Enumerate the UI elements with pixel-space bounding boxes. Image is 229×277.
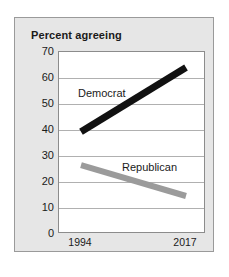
series-layer	[59, 52, 204, 232]
series-line-democrat	[81, 67, 186, 131]
x-tick-2017: 2017	[173, 236, 196, 248]
y-tick-20: 20	[10, 175, 54, 187]
series-label-republican: Republican	[122, 161, 177, 173]
y-tick-50: 50	[10, 97, 54, 109]
series-label-democrat: Democrat	[78, 87, 126, 99]
plot-area	[58, 51, 205, 233]
chart-title: Percent agreeing	[31, 29, 122, 41]
y-axis-tick-labels: 70 60 50 40 30 20 10 0	[8, 51, 54, 233]
y-tick-0: 0	[10, 227, 54, 239]
y-tick-30: 30	[10, 149, 54, 161]
chart-figure: Percent agreeing 70 60 50 40 30 20 10 0 …	[0, 0, 229, 277]
y-tick-10: 10	[10, 201, 54, 213]
x-tick-1994: 1994	[68, 236, 91, 248]
y-tick-60: 60	[10, 71, 54, 83]
y-tick-40: 40	[10, 123, 54, 135]
x-axis-tick-labels: 1994 2017	[58, 236, 205, 252]
y-tick-70: 70	[10, 45, 54, 57]
